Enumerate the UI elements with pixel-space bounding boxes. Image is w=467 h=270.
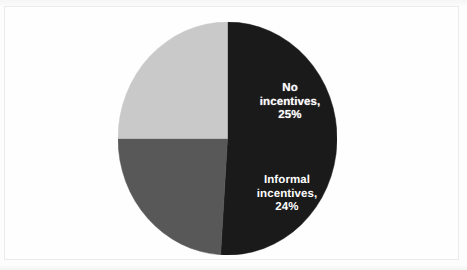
chart-figure: No incentives, 25% Formal incentives, 51…	[0, 0, 467, 270]
pie-slice-label-no-incentives: No incentives, 25%	[252, 82, 328, 123]
pie-slice-formal-incentives[interactable]	[221, 22, 337, 255]
scan-band-bottom	[0, 265, 467, 270]
pie-chart: No incentives, 25% Formal incentives, 51…	[118, 22, 337, 255]
pie-slice-label-informal-incentives: Informal incentives, 24%	[237, 174, 337, 215]
plot-area: No incentives, 25% Formal incentives, 51…	[4, 6, 459, 260]
pie-slice-no-incentives[interactable]	[118, 22, 228, 139]
pie-slice-informal-incentives[interactable]	[118, 139, 228, 255]
pie-slices	[118, 22, 337, 255]
pie-chart-svg	[118, 22, 337, 255]
pie-slice-label-formal-incentives: Formal incentives, 51%	[352, 135, 446, 176]
